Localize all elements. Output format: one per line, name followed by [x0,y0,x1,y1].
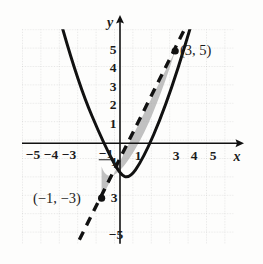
x-tick-label--5: −5 [26,148,40,162]
x-tick-label-5: 5 [210,149,217,163]
point-label-neg1-neg3: (−1, −3) [33,191,81,206]
y-axis-label: y [107,16,113,30]
marker-3-5 [172,47,179,54]
x-tick-label--4: −4 [44,148,58,162]
y-tick-label-5: 5 [110,43,117,57]
y-tick-label-3: 3 [110,80,117,94]
y-tick-label--1: 1 [111,155,118,169]
marker-neg1-neg3 [98,195,105,202]
x-tick-label--3: −3 [62,148,76,162]
x-tick-label-4: 4 [191,149,198,163]
y-tick-label-1: 1 [110,117,117,131]
y-tick-label--5: −5 [109,228,123,242]
y-tick-label--3: 3 [111,191,118,205]
x-tick-label-3: 3 [173,149,180,163]
x-tick-label-1: 1 [135,149,142,163]
grid-lines [22,29,234,244]
y-tick-label-4: 4 [110,61,117,75]
x-axis-label: x [234,150,241,164]
coordinate-plane-svg [0,0,263,264]
graph-figure: −5 −4 −3 −1 1 3 4 5 5 4 3 2 1 1 3 −5 y x… [0,0,263,264]
y-tick-label-2: 2 [110,98,117,112]
point-label-3-5: (3, 5) [180,43,211,58]
